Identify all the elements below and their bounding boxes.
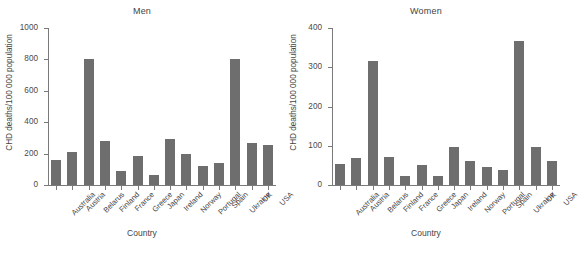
y-axis-tick-label: 200 — [24, 149, 38, 158]
y-axis-tick: 0 — [44, 185, 48, 186]
bar — [417, 165, 427, 185]
y-axis-tick-label: 600 — [24, 86, 38, 95]
y-axis-tick-label: 200 — [308, 102, 322, 111]
bar — [351, 158, 361, 185]
y-axis-tick-label: 1000 — [20, 23, 38, 32]
x-axis-label-women: Country — [284, 228, 568, 238]
bar — [230, 59, 240, 185]
bar — [498, 170, 508, 185]
chart-title-women: Women — [284, 6, 568, 16]
bar — [433, 176, 443, 185]
panel-men: Men CHD deaths/100 000 population 020040… — [0, 0, 284, 257]
y-axis-label-text-men: CHD deaths/100 000 population — [5, 34, 14, 151]
bar — [400, 176, 410, 185]
bar — [165, 139, 175, 185]
y-axis-tick-label: 300 — [308, 62, 322, 71]
bar — [547, 161, 557, 185]
y-axis-tick-label: 800 — [24, 54, 38, 63]
x-axis-category-labels-women: AustraliaAustriaBelarusFinlandFranceGree… — [332, 190, 560, 230]
bar — [368, 61, 378, 185]
y-axis-label-text-women: CHD deaths/100 000 population — [289, 34, 298, 151]
panel-women: Women CHD deaths/100 000 population 0100… — [284, 0, 568, 257]
bar — [198, 166, 208, 185]
y-axis-tick: 200 — [44, 154, 48, 155]
x-axis-line-men — [48, 185, 276, 186]
y-axis-tick-label: 0 — [317, 180, 322, 189]
bar — [84, 59, 94, 185]
y-axis-tick: 800 — [44, 59, 48, 60]
y-axis-label-men: CHD deaths/100 000 population — [2, 0, 16, 185]
bar — [465, 161, 475, 185]
bar — [116, 171, 126, 185]
x-axis-line-women — [332, 185, 560, 186]
bar-series-men — [48, 28, 276, 185]
x-axis-tick-label: USA — [561, 190, 578, 207]
plot-area-women: 0100200300400 — [332, 28, 560, 185]
bar — [247, 143, 257, 185]
y-axis-tick: 100 — [328, 146, 332, 147]
bar — [51, 160, 61, 185]
y-axis-tick: 400 — [328, 28, 332, 29]
bar — [214, 163, 224, 185]
bar — [335, 164, 345, 185]
x-axis-category-labels-men: AustraliaAustriaBelarusFinlandFranceGree… — [48, 190, 276, 230]
y-axis-tick: 0 — [328, 185, 332, 186]
bar — [531, 147, 541, 185]
x-axis-label-men: Country — [0, 228, 284, 238]
y-axis-tick: 600 — [44, 91, 48, 92]
y-axis-tick-label: 400 — [308, 23, 322, 32]
bar — [133, 156, 143, 185]
plot-area-men: 02004006008001000 — [48, 28, 276, 185]
bar — [149, 175, 159, 185]
bar — [482, 167, 492, 185]
y-axis-tick: 1000 — [44, 28, 48, 29]
y-axis-tick: 200 — [328, 107, 332, 108]
y-axis-tick-label: 100 — [308, 141, 322, 150]
y-axis-label-women: CHD deaths/100 000 population — [286, 0, 300, 185]
bar-series-women — [332, 28, 560, 185]
bar — [100, 141, 110, 185]
y-axis-tick: 300 — [328, 67, 332, 68]
y-axis-tick-label: 0 — [33, 180, 38, 189]
bar — [67, 152, 77, 185]
bar — [384, 157, 394, 185]
bar — [514, 41, 524, 185]
bar — [181, 154, 191, 185]
y-axis-tick-label: 400 — [24, 117, 38, 126]
chart-title-men: Men — [0, 6, 284, 16]
y-axis-tick: 400 — [44, 122, 48, 123]
bar — [449, 147, 459, 185]
bar — [263, 145, 273, 185]
